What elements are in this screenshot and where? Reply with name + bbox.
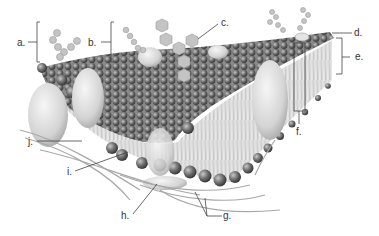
label-c: c.	[221, 18, 229, 28]
label-d: d.	[354, 28, 362, 38]
bracket-e	[336, 38, 342, 74]
transmembrane-protein-right	[252, 60, 288, 140]
label-e: e.	[355, 52, 363, 62]
label-f: f.	[296, 127, 302, 137]
leader-c	[198, 24, 218, 39]
label-i: i.	[67, 167, 72, 177]
label-a: a.	[17, 38, 25, 48]
leader-g	[195, 192, 222, 216]
label-b: b.	[88, 38, 96, 48]
transmembrane-protein-channel	[72, 68, 104, 128]
bracket-a	[37, 22, 40, 62]
membrane-illustration	[0, 0, 379, 236]
transmembrane-protein-left	[28, 83, 68, 147]
label-h: h.	[121, 211, 129, 221]
cell-membrane-diagram: a. b. c. d. e. f. g. h. i. j.	[0, 0, 379, 236]
surface-protein	[208, 45, 228, 59]
label-g: g.	[223, 211, 231, 221]
protein-channel-h	[146, 128, 174, 176]
label-j: j.	[28, 137, 33, 147]
